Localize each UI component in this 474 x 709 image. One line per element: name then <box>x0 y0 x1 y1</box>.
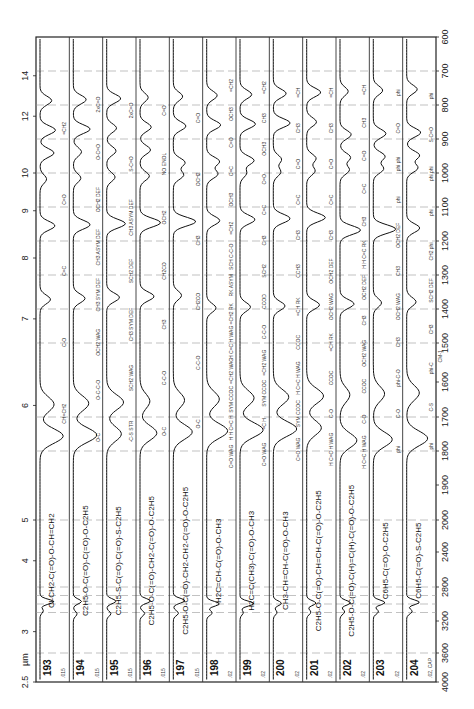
tick-label: 1200 <box>440 231 450 251</box>
band-annotation: C=C <box>361 183 367 194</box>
band-annotation: OCH2 WAG <box>395 293 401 320</box>
band-annotation: C=O <box>361 150 367 161</box>
tick-label: 1300 <box>440 265 450 285</box>
band-annotation: CH3 <box>395 266 401 276</box>
compound-number: 198 <box>209 659 220 676</box>
band-annotation: SCH2 <box>261 264 267 278</box>
band-annotation: C=C <box>328 194 334 205</box>
band-annotation: =CH2 WAG <box>261 350 267 376</box>
band-annotation: C=O <box>195 113 201 124</box>
spectrum-strip: 201.02C2H5-O-C(=O)-CH=CH-C(=O)-O-C2H5=CH… <box>303 37 334 682</box>
tick-label: 3600 <box>440 643 450 663</box>
structural-formula: C6H5-C(=O)-S-C2H5 <box>414 522 423 599</box>
band-annotation: OCH2 DEF <box>328 258 334 283</box>
path-length: .02 <box>327 671 333 678</box>
band-annotation: =CH2 <box>61 122 67 135</box>
band-annotation: CH2CO <box>195 293 201 311</box>
band-annotation: CH3 <box>361 216 367 226</box>
band-annotation: SCH C-C-O <box>228 243 234 269</box>
band-annotation: C-O <box>361 414 367 423</box>
compound-number: 201 <box>309 659 320 676</box>
band-annotation: CH3 <box>161 319 167 329</box>
tick-label: 900 <box>440 131 450 146</box>
band-annotation: CCOC <box>295 335 301 350</box>
band-annotation: CH3 <box>295 230 301 240</box>
structural-formula: C2H5-S-C(=O)-C(=O)-S-C2H5 <box>114 506 123 615</box>
compound-number: 196 <box>142 659 153 676</box>
tick-label: 9 <box>20 208 30 213</box>
tick-label: 14 <box>20 71 30 81</box>
tick-label: 1900 <box>440 475 450 495</box>
band-annotation: H C=C H WAG <box>228 326 234 359</box>
band-annotation: =CH <box>328 87 334 98</box>
band-annotation: phi <box>428 209 434 216</box>
compound-number: 199 <box>242 659 253 676</box>
tick-label: 2.5 <box>20 676 30 689</box>
spectrum-strip: 197.015C2H5-O-C(=O)-CH2-CH2-C(=O)-O-C2H5… <box>169 37 200 682</box>
band-annotation: CCOD <box>261 294 267 309</box>
band-annotation: CCOC <box>328 370 334 385</box>
band-annotation: C-O <box>328 409 334 418</box>
band-annotation: H H C=C H <box>228 415 234 441</box>
band-annotation: C-O <box>395 409 401 418</box>
band-annotation: OCH2 WAG <box>361 340 367 367</box>
band-annotation: =CH <box>295 87 301 98</box>
path-length: .02 <box>394 671 400 678</box>
path-length: .015 <box>127 668 133 678</box>
band-annotation: CH=CH2 <box>61 403 67 423</box>
compound-number: 193 <box>42 659 53 676</box>
band-annotation: OCH3 <box>228 107 234 121</box>
compound-number: 194 <box>75 659 86 676</box>
band-annotation: C=O WAG <box>228 445 234 469</box>
band-annotation: 2xC=O <box>128 103 134 119</box>
path-length: .02 <box>360 671 366 678</box>
band-annotation: C=O <box>161 105 167 116</box>
band-annotation: CH3 SYM DEF <box>95 278 101 312</box>
structural-formula: H2C=C(CH3)-C(=O)-O-CH3 <box>247 510 256 611</box>
band-annotation: OCH2 <box>161 210 167 224</box>
band-annotation: S-C=O <box>128 156 134 172</box>
band-annotation: CH3 ASYM DEF <box>128 199 134 236</box>
wavenumber-axis: 4000360032002800240020001900180017001600… <box>436 29 450 692</box>
tick-label: 2400 <box>440 542 450 562</box>
band-annotation: phi-C <box>428 362 434 374</box>
band-annotation: phi <box>395 89 401 96</box>
band-annotation: C=C <box>228 166 234 177</box>
band-annotation: phi-C-O <box>395 369 401 387</box>
structural-formula: C6H5-C(=O)-O-C2H5 <box>381 522 390 600</box>
band-annotation: phi phi <box>395 157 401 172</box>
wavelength-unit: µm <box>20 653 30 666</box>
band-annotation: SYM CCOC <box>261 379 267 406</box>
band-annotation: SYM CCOC <box>228 386 234 413</box>
wavenumber-unit: CM-1 <box>437 350 443 362</box>
compound-number: 203 <box>375 659 386 676</box>
tick-label: 1000 <box>440 163 450 183</box>
compound-number: 204 <box>409 659 420 676</box>
wavelength-axis: 2.53456789101214µm <box>20 71 36 689</box>
band-annotation: H C=C H WAG <box>328 433 334 466</box>
band-annotation: H C=C H WAG <box>361 435 367 468</box>
band-annotation: phi phi <box>428 166 434 181</box>
band-annotation: O-C <box>195 419 201 429</box>
path-length: .02 <box>227 671 233 678</box>
path-length: .015 <box>194 668 200 678</box>
band-annotation: CH3 <box>328 123 334 133</box>
band-annotation: =CH RK <box>328 332 334 351</box>
tick-label: 3 <box>20 629 30 634</box>
band-annotation: C-C-O <box>161 371 167 386</box>
path-length: .015 <box>160 668 166 678</box>
band-annotation: CH3 <box>395 337 401 347</box>
path-length: .02, CAP <box>427 657 433 678</box>
tick-label: 1100 <box>440 197 450 216</box>
band-annotation: RK ASYM <box>228 274 234 296</box>
band-annotation: OCH2 <box>195 172 201 186</box>
structural-formula: C2H5-O-C(=O)-CH2-C(=O)-O-C2H5 <box>147 496 156 626</box>
spectrum-strip: 194.015C2H5-O-C(=O)-C(=O)-O-C2H52xC=OO-C… <box>69 37 100 682</box>
spectrum-strip: 196.015C2H5-O-C(=O)-CH2-C(=O)-O-C2H5C=ON… <box>136 37 167 682</box>
band-annotation: OCH2 DEF <box>395 223 401 248</box>
band-annotation: C=O WAG <box>295 437 301 461</box>
spectrum-strip: 195.015C2H5-S-C(=O)-C(=O)-S-C2H52xC=OS-C… <box>103 37 134 682</box>
structural-formula: Cl-CH2-C(=O)-O-CH=CH2 <box>47 513 56 608</box>
band-annotation: SYM CCOC <box>295 400 301 427</box>
tick-label: 600 <box>440 29 450 44</box>
